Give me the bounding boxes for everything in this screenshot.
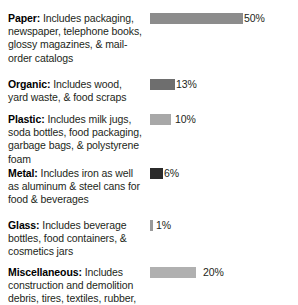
- row-description-metal: Metal: Includes iron as well as aluminum…: [8, 167, 144, 207]
- bar-group-organic: 13%: [150, 79, 197, 90]
- bar-paper: [150, 13, 243, 24]
- bar-group-metal: 6%: [150, 168, 179, 179]
- bar-value-label-plastic: 10%: [175, 114, 196, 125]
- bar-organic: [150, 79, 175, 90]
- bar-plastic: [150, 114, 171, 125]
- bar-value-label-paper: 50%: [244, 13, 265, 24]
- row-category-paper: Paper:: [8, 12, 40, 24]
- row-description-organic: Organic: Includes wood, yard waste, & fo…: [8, 78, 144, 104]
- bar-group-miscellaneous: 20%: [150, 267, 224, 278]
- row-category-metal: Metal:: [8, 167, 38, 179]
- bar-value-label-glass: 1%: [156, 220, 171, 231]
- bar-group-paper: 50%: [150, 13, 265, 24]
- row-description-glass: Glass: Includes beverage bottles, food c…: [8, 219, 144, 259]
- row-category-plastic: Plastic:: [8, 113, 45, 125]
- row-category-organic: Organic:: [8, 78, 50, 90]
- row-description-miscellaneous: Miscellaneous: Includes construction and…: [8, 266, 144, 305]
- bar-value-label-metal: 6%: [164, 168, 179, 179]
- bar-miscellaneous: [150, 267, 196, 278]
- row-category-glass: Glass:: [8, 219, 40, 231]
- row-description-paper: Paper: Includes packaging, newspaper, te…: [8, 12, 144, 65]
- bar-value-label-miscellaneous: 20%: [203, 267, 224, 278]
- row-category-miscellaneous: Miscellaneous:: [8, 266, 82, 278]
- waste-composition-bar-chart: Paper: Includes packaging, newspaper, te…: [0, 0, 298, 305]
- bar-value-label-organic: 13%: [176, 79, 197, 90]
- bar-group-glass: 1%: [150, 220, 171, 231]
- bar-group-plastic: 10%: [150, 114, 196, 125]
- bar-glass: [150, 220, 153, 231]
- bar-metal: [150, 168, 163, 179]
- row-description-plastic: Plastic: Includes milk jugs, soda bottle…: [8, 113, 144, 166]
